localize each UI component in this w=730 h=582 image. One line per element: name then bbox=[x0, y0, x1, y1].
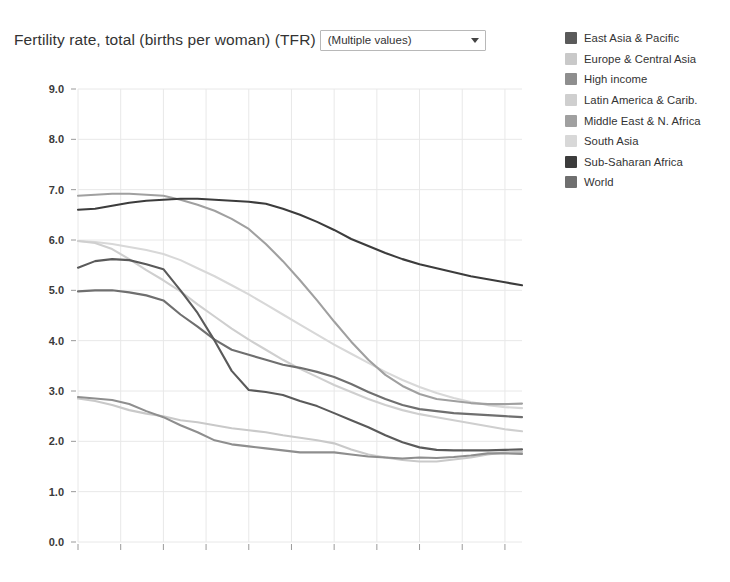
x-tick-label: 1970 bbox=[151, 558, 175, 560]
chart-legend: East Asia & PacificEurope & Central Asia… bbox=[565, 28, 725, 193]
series-line bbox=[78, 241, 522, 408]
chevron-down-icon bbox=[471, 38, 479, 43]
x-tick-label: 1995 bbox=[365, 558, 389, 560]
y-tick-label: 1.0 bbox=[49, 486, 64, 498]
legend-item[interactable]: Latin America & Carib. bbox=[565, 90, 725, 111]
measure-filter-dropdown[interactable]: (Multiple values) bbox=[320, 30, 486, 51]
plot-area: 9.08.07.06.05.04.03.02.01.00.01960196519… bbox=[0, 60, 540, 560]
legend-swatch-icon bbox=[565, 32, 577, 44]
legend-item[interactable]: Sub-Saharan Africa bbox=[565, 152, 725, 173]
y-tick-label: 2.0 bbox=[49, 435, 64, 447]
legend-swatch-icon bbox=[565, 135, 577, 147]
legend-item-label: Sub-Saharan Africa bbox=[584, 156, 683, 168]
series-line bbox=[78, 259, 522, 450]
y-tick-label: 4.0 bbox=[49, 335, 64, 347]
y-tick-label: 6.0 bbox=[49, 234, 64, 246]
x-tick-label: 1975 bbox=[194, 558, 218, 560]
legend-item-label: South Asia bbox=[584, 135, 639, 147]
page-title: Fertility rate, total (births per woman)… bbox=[14, 31, 316, 49]
legend-item-label: Europe & Central Asia bbox=[584, 53, 696, 65]
y-tick-label: 8.0 bbox=[49, 133, 64, 145]
series-line bbox=[78, 199, 522, 286]
x-tick-label: 1960 bbox=[66, 558, 90, 560]
x-tick-label: 1985 bbox=[279, 558, 303, 560]
series-line bbox=[78, 397, 522, 458]
legend-item[interactable]: East Asia & Pacific bbox=[565, 28, 725, 49]
chart-page: Fertility rate, total (births per woman)… bbox=[0, 0, 730, 582]
legend-item[interactable]: Middle East & N. Africa bbox=[565, 110, 725, 131]
legend-item-label: Middle East & N. Africa bbox=[584, 115, 701, 127]
x-tick-label: 1980 bbox=[237, 558, 261, 560]
series-line bbox=[78, 194, 522, 404]
legend-item[interactable]: High income bbox=[565, 69, 725, 90]
legend-swatch-icon bbox=[565, 53, 577, 65]
legend-swatch-icon bbox=[565, 73, 577, 85]
y-tick-label: 7.0 bbox=[49, 184, 64, 196]
x-tick-label: 2000 bbox=[407, 558, 431, 560]
series-line bbox=[78, 241, 522, 431]
legend-item-label: World bbox=[584, 176, 614, 188]
line-chart: 9.08.07.06.05.04.03.02.01.00.01960196519… bbox=[0, 60, 540, 560]
x-tick-label: 2005 bbox=[450, 558, 474, 560]
y-tick-label: 0.0 bbox=[49, 536, 64, 548]
x-tick-label: 1990 bbox=[322, 558, 346, 560]
y-tick-label: 5.0 bbox=[49, 284, 64, 296]
legend-swatch-icon bbox=[565, 176, 577, 188]
legend-swatch-icon bbox=[565, 115, 577, 127]
legend-swatch-icon bbox=[565, 94, 577, 106]
measure-filter-value: (Multiple values) bbox=[328, 34, 412, 46]
legend-swatch-icon bbox=[565, 156, 577, 168]
legend-item[interactable]: Europe & Central Asia bbox=[565, 49, 725, 70]
legend-item-label: Latin America & Carib. bbox=[584, 94, 698, 106]
y-tick-label: 3.0 bbox=[49, 385, 64, 397]
chart-header: Fertility rate, total (births per woman)… bbox=[14, 27, 486, 53]
legend-item[interactable]: South Asia bbox=[565, 131, 725, 152]
legend-item-label: High income bbox=[584, 73, 647, 85]
legend-item-label: East Asia & Pacific bbox=[584, 32, 679, 44]
legend-item[interactable]: World bbox=[565, 172, 725, 193]
y-tick-label: 9.0 bbox=[49, 83, 64, 95]
x-tick-label: 1965 bbox=[108, 558, 132, 560]
x-tick-label: 2010 bbox=[493, 558, 517, 560]
